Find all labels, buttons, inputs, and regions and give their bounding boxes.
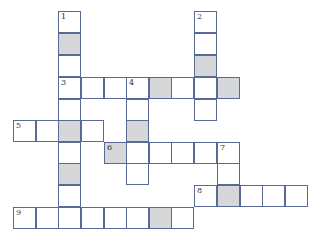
crossword-cell-clue-7[interactable]: 7 [217,142,240,164]
clue-number: 9 [16,208,21,218]
crossword-cell-clue-6[interactable]: 6 [104,142,127,164]
crossword-cell[interactable] [58,99,81,121]
crossword-cell[interactable] [104,77,127,99]
crossword-cell-shaded[interactable] [149,207,172,229]
crossword-cell-shaded[interactable] [58,120,81,142]
crossword-cell[interactable] [285,185,308,207]
crossword-grid: 132456789 [0,0,320,239]
crossword-cell[interactable] [126,207,149,229]
clue-number: 5 [16,121,21,131]
crossword-cell-shaded[interactable] [217,77,240,99]
clue-number: 8 [197,186,202,196]
crossword-cell[interactable] [36,207,59,229]
crossword-cell[interactable] [81,207,104,229]
crossword-cell[interactable] [149,142,172,164]
crossword-cell[interactable] [194,142,217,164]
crossword-cell-shaded[interactable] [58,33,81,55]
clue-number: 3 [61,78,66,88]
crossword-cell[interactable] [262,185,285,207]
crossword-cell-clue-2[interactable]: 2 [194,11,217,33]
crossword-cell-clue-9[interactable]: 9 [13,207,36,229]
clue-number: 4 [129,78,134,88]
crossword-cell-clue-8[interactable]: 8 [194,185,217,207]
crossword-cell[interactable] [58,55,81,77]
crossword-cell-shaded[interactable] [149,77,172,99]
crossword-cell-shaded[interactable] [126,120,149,142]
crossword-cell-clue-1[interactable]: 1 [58,11,81,33]
crossword-cell[interactable] [194,99,217,121]
crossword-cell-clue-4[interactable]: 4 [126,77,149,99]
crossword-cell[interactable] [126,163,149,185]
crossword-cell[interactable] [81,77,104,99]
crossword-cell-shaded[interactable] [58,163,81,185]
crossword-cell[interactable] [171,142,194,164]
crossword-cell[interactable] [81,120,104,142]
clue-number: 2 [197,12,202,22]
crossword-cell-shaded[interactable] [217,185,240,207]
crossword-cell[interactable] [36,120,59,142]
crossword-cell-clue-5[interactable]: 5 [13,120,36,142]
crossword-cell[interactable] [126,99,149,121]
clue-number: 7 [220,143,225,153]
crossword-cell[interactable] [171,77,194,99]
crossword-cell-shaded[interactable] [194,55,217,77]
clue-number: 1 [61,12,66,22]
crossword-cell[interactable] [194,77,217,99]
crossword-cell[interactable] [171,207,194,229]
crossword-cell[interactable] [58,142,81,164]
crossword-cell[interactable] [104,207,127,229]
crossword-cell[interactable] [194,33,217,55]
crossword-cell-clue-3[interactable]: 3 [58,77,81,99]
clue-number: 6 [107,143,112,153]
crossword-cell[interactable] [217,163,240,185]
crossword-cell[interactable] [58,207,81,229]
crossword-cell[interactable] [126,142,149,164]
crossword-cell[interactable] [58,185,81,207]
crossword-cell[interactable] [240,185,263,207]
